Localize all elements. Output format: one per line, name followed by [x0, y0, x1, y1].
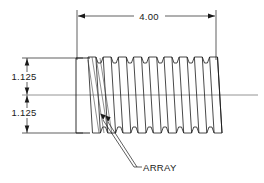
overall-length-dimension: 4.00	[77, 10, 216, 60]
upper-radius-dimension-text: 1.125	[12, 71, 37, 82]
length-dimension-text: 4.00	[139, 11, 158, 22]
upper-arrow-top-icon	[25, 59, 30, 66]
length-arrow-left-icon	[78, 14, 85, 19]
array-leader-note: ARRAY	[100, 113, 177, 172]
lower-arrow-bottom-icon	[25, 126, 30, 133]
length-arrow-right-icon	[208, 14, 215, 19]
technical-drawing-svg: 4.00 1.125 1.125	[0, 0, 264, 183]
upper-arrow-bottom-icon	[25, 88, 30, 95]
array-note-text: ARRAY	[143, 162, 177, 173]
shaft-body-outline	[76, 58, 90, 133]
lower-radius-dimension-text: 1.125	[12, 107, 37, 118]
cad-drawing-canvas: 4.00 1.125 1.125	[0, 0, 264, 183]
lower-arrow-top-icon	[25, 96, 30, 103]
radius-dimensions-group: 1.125 1.125	[12, 58, 83, 133]
